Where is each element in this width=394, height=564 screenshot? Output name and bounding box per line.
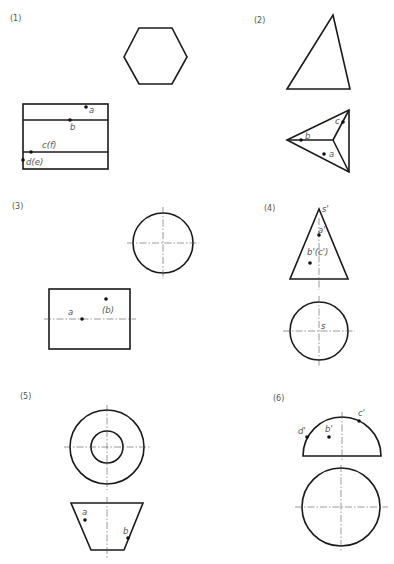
point-a [83, 518, 87, 522]
panel-4-number: (4) [264, 204, 275, 213]
projection-exercise-figure: (1) a b c(f) d(e) (2) b c a (3) [0, 0, 394, 564]
point-b-c-prime-label: b'(c') [307, 247, 328, 257]
point-d-e [21, 158, 25, 162]
panel-2: (2) b c a [254, 15, 350, 172]
panel-3-number: (3) [12, 202, 23, 211]
point-b-label: b [70, 122, 75, 132]
point-b-label: (b) [102, 305, 114, 315]
point-c-prime [357, 419, 361, 423]
point-a-label: a [329, 149, 334, 159]
panel-3: (3) a (b) [12, 202, 199, 349]
point-b-prime [327, 435, 331, 439]
point-a-label: a [82, 507, 87, 517]
panel-4: (4) s' a' b'(c') s [264, 204, 355, 366]
point-c-label: c [335, 116, 340, 126]
panel-1: (1) a b c(f) d(e) [10, 14, 187, 169]
panel-6: (6) d' b' c' [273, 394, 388, 551]
panel-5: (5) a b [20, 392, 150, 558]
point-c-f-label: c(f) [42, 140, 56, 150]
point-a-label: a [68, 307, 73, 317]
point-c-f [29, 150, 33, 154]
point-a [80, 317, 84, 321]
point-d-e-label: d(e) [26, 157, 43, 167]
point-a [84, 105, 88, 109]
pyramid-front-view [287, 15, 350, 89]
hexagon-top-view [124, 28, 187, 84]
point-b [126, 536, 130, 540]
point-c [341, 120, 345, 124]
center-s-label: s [321, 321, 326, 331]
panel-1-number: (1) [10, 14, 21, 23]
point-d-prime [305, 435, 309, 439]
point-a-label: a [89, 105, 94, 115]
point-b-prime-label: b' [325, 424, 333, 434]
point-a-prime-label: a' [318, 225, 326, 235]
apex-s-prime-label: s' [322, 204, 329, 214]
point-b-label: b [123, 526, 128, 536]
panel-5-number: (5) [20, 392, 31, 401]
point-d-prime-label: d' [298, 426, 306, 436]
panel-2-number: (2) [254, 16, 265, 25]
point-b [299, 138, 303, 142]
point-b-prime [308, 261, 312, 265]
pyramid-top-view [287, 110, 349, 172]
point-b-label: b [305, 131, 310, 141]
point-a [322, 152, 326, 156]
point-c-prime-label: c' [358, 408, 365, 418]
panel-6-number: (6) [273, 394, 284, 403]
point-b [104, 297, 108, 301]
